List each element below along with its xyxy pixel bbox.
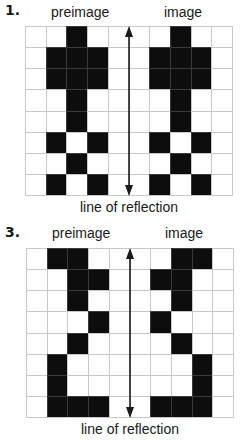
grid-cell <box>26 354 47 375</box>
grid-cell-filled <box>67 333 88 354</box>
line-of-reflection-arrow-icon <box>124 248 136 418</box>
grid-cell-filled <box>192 354 213 375</box>
grid-cell <box>67 354 88 375</box>
grid-cell <box>87 111 108 132</box>
grid-cell <box>191 89 212 110</box>
grid-cell <box>211 132 232 153</box>
grid-cell <box>26 396 47 417</box>
problem-1: 1. preimage image line of reflection <box>0 0 246 221</box>
grid-cell-filled <box>46 132 67 153</box>
grid-cell-filled <box>192 375 213 396</box>
grid-cell <box>192 311 213 332</box>
grid-cell-filled <box>149 68 170 89</box>
grid-cell-filled <box>149 132 170 153</box>
grid-cell-filled <box>67 269 88 290</box>
image-label: image <box>164 4 202 20</box>
grid-cell-filled <box>171 333 192 354</box>
grid-cell <box>25 174 46 195</box>
grid-cell <box>26 269 47 290</box>
grid-cell <box>46 153 67 174</box>
grid-cell-filled <box>47 396 68 417</box>
grid-cell <box>149 26 170 47</box>
grid-cell <box>66 174 87 195</box>
grid-cell <box>47 333 68 354</box>
grid-cell <box>211 111 232 132</box>
grid-cell <box>67 311 88 332</box>
grid-cell-filled <box>171 269 192 290</box>
line-of-reflection-label: line of reflection <box>0 199 246 215</box>
grid-cell-filled <box>171 396 192 417</box>
grid-cell-filled <box>87 68 108 89</box>
grid-cell <box>171 375 192 396</box>
grid-cell-filled <box>191 174 212 195</box>
grid-cell-filled <box>170 68 191 89</box>
grid-cell <box>87 89 108 110</box>
grid-cell <box>26 311 47 332</box>
grid-cell-filled <box>149 47 170 68</box>
grid-cell <box>211 47 232 68</box>
grid-cell <box>149 153 170 174</box>
grid-cell <box>87 26 108 47</box>
grid-cell <box>171 354 192 375</box>
grid-cell-filled <box>170 47 191 68</box>
grid-cell <box>25 47 46 68</box>
grid-cell-filled <box>191 47 212 68</box>
grid-cell <box>150 375 171 396</box>
grid-cell-filled <box>150 311 171 332</box>
grid-cell-filled <box>66 68 87 89</box>
grid-cell <box>88 354 109 375</box>
grid-cell <box>87 153 108 174</box>
grid-cell <box>25 26 46 47</box>
grid-cell <box>26 290 47 311</box>
grid-cell-filled <box>87 132 108 153</box>
image-label: image <box>165 225 203 241</box>
grid-cell <box>150 354 171 375</box>
grid-cell <box>191 26 212 47</box>
grid-cell-filled <box>66 26 87 47</box>
grid-cell-filled <box>66 89 87 110</box>
grid-cell <box>150 290 171 311</box>
grid-cell <box>149 89 170 110</box>
grid-cell <box>150 248 171 269</box>
grid-cell <box>149 111 170 132</box>
grid-cell-filled <box>191 68 212 89</box>
grid-cell <box>212 396 233 417</box>
grid-cell-filled <box>171 248 192 269</box>
grid-cell <box>88 333 109 354</box>
problem-3: 3. preimage image line of reflection <box>0 221 246 442</box>
grid-cell <box>192 290 213 311</box>
grid-cell <box>170 174 191 195</box>
grid-cell <box>88 248 109 269</box>
grid-cell-filled <box>149 174 170 195</box>
grid-cell <box>26 248 47 269</box>
grid-cell <box>171 311 192 332</box>
grid-cell <box>211 26 232 47</box>
problem-number: 3. <box>5 224 20 240</box>
grid-cell <box>46 26 67 47</box>
grid-cell-filled <box>192 396 213 417</box>
grid-cell <box>211 153 232 174</box>
grid-cell-filled <box>150 269 171 290</box>
grid-cell-filled <box>67 248 88 269</box>
preimage-label: preimage <box>51 4 109 20</box>
grid-cell-filled <box>170 111 191 132</box>
grid-cell <box>212 354 233 375</box>
grid-cell <box>211 68 232 89</box>
grid-cell-filled <box>47 375 68 396</box>
grid-cell <box>26 375 47 396</box>
grid-cell-filled <box>47 248 68 269</box>
grid-cell <box>46 89 67 110</box>
grid-cell <box>67 375 88 396</box>
grid-cell <box>25 153 46 174</box>
grid-cell <box>150 333 171 354</box>
grid-cell-filled <box>192 248 213 269</box>
grid-cell <box>46 111 67 132</box>
line-of-reflection-arrow-icon <box>123 26 135 196</box>
grid-cell-filled <box>88 396 109 417</box>
grid-cell-filled <box>46 47 67 68</box>
grid-cell-filled <box>150 396 171 417</box>
grid-cell <box>25 111 46 132</box>
grid-cell-filled <box>170 89 191 110</box>
grid-cell-filled <box>67 396 88 417</box>
grid-cell <box>25 68 46 89</box>
